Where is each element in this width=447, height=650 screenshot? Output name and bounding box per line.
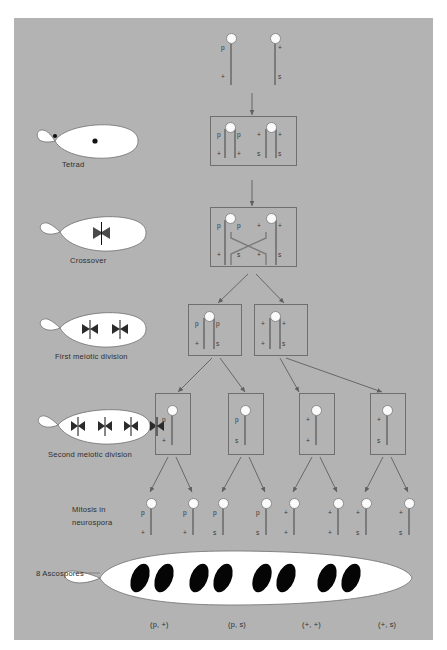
chromatid-arm bbox=[224, 220, 226, 265]
figure-canvas: p + + s p p + + + + s s p p + s + + + bbox=[0, 0, 447, 650]
centromere bbox=[382, 405, 393, 416]
chromatid-arm bbox=[213, 318, 215, 349]
chromatid-arm bbox=[203, 318, 205, 349]
allele-label: + bbox=[278, 131, 282, 138]
allele-label: + bbox=[278, 222, 282, 229]
centromere bbox=[225, 122, 236, 133]
allele-label: + bbox=[328, 509, 332, 516]
allele-label: s bbox=[237, 251, 241, 258]
allele-label: + bbox=[217, 150, 221, 157]
ascus-with-ascospores bbox=[65, 551, 412, 605]
chromatid-arm bbox=[244, 412, 246, 445]
allele-label: + bbox=[261, 320, 265, 327]
centromere bbox=[361, 498, 372, 509]
genotype-label-3: (+, +) bbox=[302, 620, 321, 629]
centromere bbox=[404, 498, 415, 509]
stage-label-first-division: First meiotic division bbox=[55, 352, 128, 361]
chromatid-arm bbox=[171, 412, 173, 445]
allele-label: s bbox=[282, 340, 286, 347]
second-division-box-3 bbox=[299, 393, 335, 455]
allele-label: p bbox=[217, 131, 221, 138]
first-division-box-1 bbox=[188, 304, 242, 356]
arrow-second-to-mitosis-8 bbox=[391, 457, 408, 492]
arrow-first-to-second-3 bbox=[280, 358, 299, 392]
centromere bbox=[270, 311, 281, 322]
allele-label: s bbox=[278, 73, 282, 80]
chromatid-arm bbox=[279, 318, 281, 349]
chromatid-arm bbox=[274, 40, 276, 85]
chromatid-arm bbox=[386, 412, 388, 445]
allele-label: + bbox=[257, 131, 261, 138]
chromatid-arm bbox=[234, 129, 236, 158]
allele-label: p bbox=[256, 509, 260, 516]
chromatid-arm bbox=[408, 505, 410, 535]
chromatid-arm bbox=[293, 505, 295, 535]
second-division-box-2 bbox=[228, 393, 264, 455]
allele-label: p bbox=[141, 509, 145, 516]
allele-label: s bbox=[216, 340, 220, 347]
allele-label: + bbox=[195, 340, 199, 347]
allele-label: p bbox=[213, 509, 217, 516]
chromatid-arm bbox=[192, 505, 194, 535]
chromatid-arm bbox=[275, 129, 277, 158]
allele-label: + bbox=[183, 529, 187, 536]
allele-label: + bbox=[237, 150, 241, 157]
stage-label-tetrad: Tetrad bbox=[62, 160, 84, 169]
allele-label: + bbox=[261, 340, 265, 347]
allele-label: p bbox=[162, 416, 166, 423]
allele-label: s bbox=[213, 529, 217, 536]
allele-label: + bbox=[399, 509, 403, 516]
second-division-box-1 bbox=[155, 393, 191, 455]
allele-label: + bbox=[284, 529, 288, 536]
allele-label: p bbox=[221, 44, 225, 51]
centromere bbox=[204, 311, 215, 322]
chromatid-arm bbox=[224, 129, 226, 158]
allele-label: p bbox=[237, 131, 241, 138]
centromere bbox=[218, 498, 229, 509]
genotype-label-1: (p, +) bbox=[150, 620, 169, 629]
allele-label: s bbox=[257, 150, 261, 157]
allele-label: + bbox=[284, 509, 288, 516]
allele-label: p bbox=[195, 320, 199, 327]
centromere bbox=[167, 405, 178, 416]
allele-label: + bbox=[377, 416, 381, 423]
second-division-box-4 bbox=[370, 393, 406, 455]
allele-label: s bbox=[235, 437, 239, 444]
centromere bbox=[333, 498, 344, 509]
centromere bbox=[266, 213, 277, 224]
arrow-second-to-mitosis-7 bbox=[365, 457, 383, 492]
allele-label: p bbox=[235, 416, 239, 423]
allele-label: s bbox=[356, 529, 360, 536]
allele-label: + bbox=[278, 44, 282, 51]
allele-label: + bbox=[282, 320, 286, 327]
stage-cell-second-division bbox=[38, 410, 164, 444]
allele-label: p bbox=[217, 222, 221, 229]
arrow-second-to-mitosis-3 bbox=[222, 457, 241, 492]
genotype-label-2: (p, s) bbox=[228, 620, 246, 629]
allele-label: s bbox=[256, 529, 260, 536]
arrow-second-to-mitosis-2 bbox=[176, 457, 192, 492]
allele-label: + bbox=[328, 529, 332, 536]
centromere bbox=[270, 33, 281, 44]
arrow-second-to-mitosis-4 bbox=[249, 457, 265, 492]
chromatid-arm bbox=[230, 40, 232, 85]
chromatid-arm bbox=[265, 129, 267, 158]
chromatid-arm bbox=[315, 412, 317, 445]
stage-label-mitosis-line1: Mitosis in bbox=[72, 505, 106, 514]
centromere bbox=[266, 122, 277, 133]
arrow-first-to-second-1 bbox=[178, 358, 212, 392]
arrow-second-to-mitosis-6 bbox=[320, 457, 337, 492]
chromatid-arm bbox=[265, 505, 267, 535]
centromere bbox=[226, 33, 237, 44]
chromatid-arm bbox=[269, 318, 271, 349]
centromere bbox=[225, 213, 236, 224]
arrow-second-to-mitosis-1 bbox=[150, 457, 168, 492]
stage-label-mitosis-line2: neurospora bbox=[72, 518, 112, 527]
centromere bbox=[289, 498, 300, 509]
stage-cell-crossover bbox=[40, 217, 146, 251]
allele-label: s bbox=[278, 150, 282, 157]
centromere bbox=[240, 405, 251, 416]
allele-label: + bbox=[257, 251, 261, 258]
allele-label: + bbox=[257, 222, 261, 229]
stage-cell-tetrad bbox=[37, 125, 138, 158]
